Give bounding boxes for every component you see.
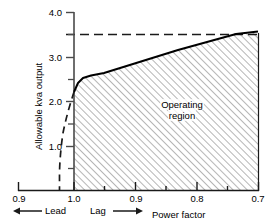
chart-figure: 4.0 3.0 2.0 1.0 Allowable kva output 0.9…: [0, 0, 269, 224]
lag-arrow-icon: [113, 206, 143, 216]
x-tick-label-0-9: 0.9: [125, 194, 147, 204]
x-axis-title: Power factor: [152, 210, 205, 220]
x-tick-label-unity: 1.0: [63, 194, 85, 204]
operating-region-label: Operating region: [145, 99, 219, 121]
lead-arrow-icon: [13, 206, 43, 216]
lead-label: Lead: [45, 206, 66, 216]
x-tick-label-0-8: 0.8: [186, 194, 208, 204]
lag-label: Lag: [90, 206, 106, 216]
operating-region-label-line2: region: [168, 110, 196, 121]
y-axis-title: Allowable kva output: [33, 63, 44, 150]
y-tick-label-3: 3.0: [36, 53, 62, 63]
x-tick-label-0-7: 0.7: [247, 194, 269, 204]
y-tick-label-4: 4.0: [36, 8, 62, 18]
operating-region-label-line1: Operating: [160, 99, 204, 110]
x-tick-label-lead-0-9: 0.9: [8, 194, 30, 204]
